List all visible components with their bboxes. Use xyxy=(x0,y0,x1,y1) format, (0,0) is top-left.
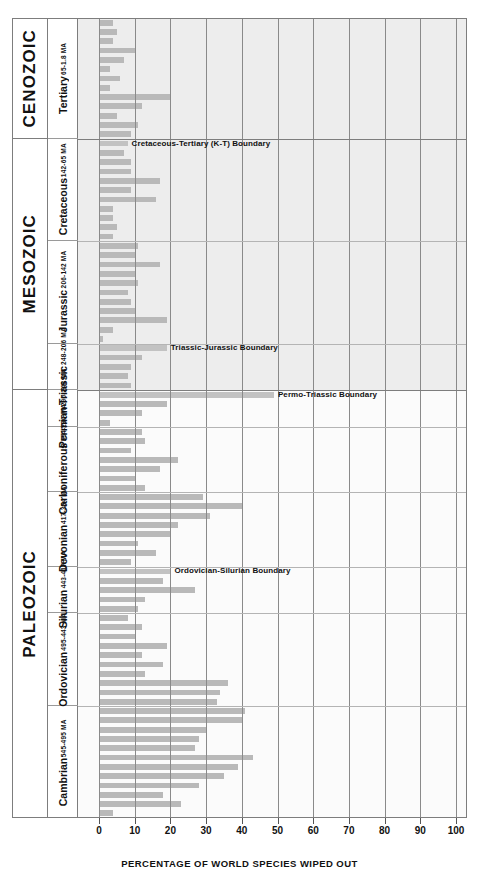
era-cell-paleozoic: PALEOZOIC xyxy=(12,390,48,818)
period-cell-silurian: Silurian443-417 MA xyxy=(48,567,78,614)
period-age: 443-417 MA xyxy=(60,551,67,589)
period-age: 248-206 MA xyxy=(60,327,67,365)
era-label: MESOZOIC xyxy=(20,214,40,313)
tick-label-80: 80 xyxy=(379,825,390,836)
period-cell-cambrian: Cambrian545-495 MA xyxy=(48,706,78,818)
tick-100 xyxy=(456,818,457,824)
period-age: 417-354 MA xyxy=(60,486,67,524)
period-cell-tertiary: Tertiary65-1.8 MA xyxy=(48,18,78,139)
tick-label-90: 90 xyxy=(415,825,426,836)
tick-60 xyxy=(313,818,314,824)
era-cell-mesozoic: MESOZOIC xyxy=(12,139,48,390)
era-cell-cenozoic: CENOZOIC xyxy=(12,18,48,139)
period-age: 354-290 MA xyxy=(60,404,67,442)
era-label: CENOZOIC xyxy=(20,29,40,128)
tick-label-70: 70 xyxy=(343,825,354,836)
period-cell-ordovician: Ordovician495-443 MA xyxy=(48,613,78,706)
extinction-chart: Cretaceous-Tertiary (K-T) BoundaryTriass… xyxy=(0,0,479,890)
tick-80 xyxy=(385,818,386,824)
tick-label-30: 30 xyxy=(201,825,212,836)
period-name: Cretaceous xyxy=(57,178,69,235)
tick-20 xyxy=(170,818,171,824)
tick-label-20: 20 xyxy=(165,825,176,836)
tick-0 xyxy=(99,818,100,824)
x-axis: 0102030405060708090100 xyxy=(78,818,467,844)
tick-30 xyxy=(206,818,207,824)
tick-label-100: 100 xyxy=(448,825,465,836)
period-column: Tertiary65-1.8 MACretaceous142-65 MAJura… xyxy=(48,18,78,818)
period-name: Cambrian xyxy=(57,757,69,805)
tick-50 xyxy=(278,818,279,824)
period-age: 545-495 MA xyxy=(60,719,67,757)
period-age: 142-65 MA xyxy=(60,143,67,177)
tick-90 xyxy=(420,818,421,824)
tick-70 xyxy=(349,818,350,824)
period-age: 290-248 MA xyxy=(60,368,67,406)
tick-40 xyxy=(242,818,243,824)
period-age: 206-142 MA xyxy=(60,251,67,289)
tick-label-50: 50 xyxy=(272,825,283,836)
period-cell-cretaceous: Cretaceous142-65 MA xyxy=(48,139,78,241)
x-axis-title: PERCENTAGE OF WORLD SPECIES WIPED OUT xyxy=(0,858,479,869)
period-name: Tertiary xyxy=(57,76,69,114)
tick-label-10: 10 xyxy=(129,825,140,836)
tick-label-60: 60 xyxy=(308,825,319,836)
era-column: CENOZOICMESOZOICPALEOZOIC xyxy=(12,18,48,818)
period-age: 65-1.8 MA xyxy=(60,43,67,75)
period-age: 495-443 MA xyxy=(60,613,67,651)
period-cell-carboniferous: Carboniferous354-290 MA xyxy=(48,427,78,492)
tick-label-0: 0 xyxy=(96,825,102,836)
era-label: PALEOZOIC xyxy=(20,550,40,658)
period-name: Ordovician xyxy=(57,651,69,706)
tick-label-40: 40 xyxy=(236,825,247,836)
tick-10 xyxy=(135,818,136,824)
chart-frame xyxy=(12,18,467,818)
